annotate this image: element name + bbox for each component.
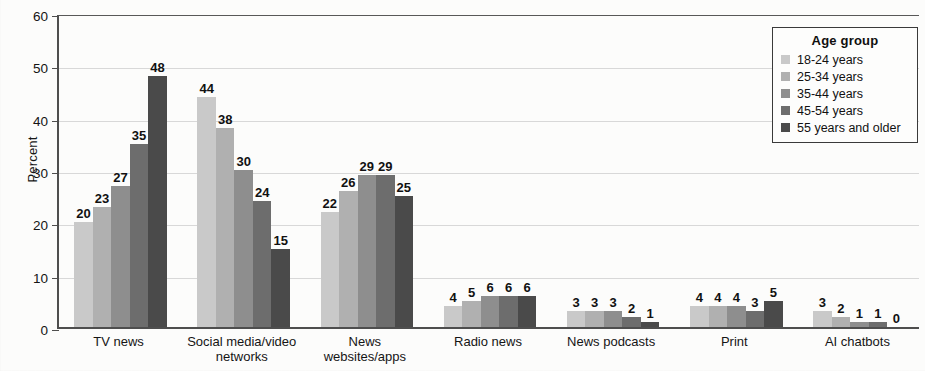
bar: 22	[321, 212, 340, 327]
legend-item-label: 25-34 years	[797, 70, 863, 84]
bar: 26	[339, 191, 358, 327]
legend-item-label: 35-44 years	[797, 87, 863, 101]
bar-value-label: 6	[486, 281, 493, 294]
bar: 2	[832, 317, 851, 327]
bar: 4	[690, 306, 709, 327]
bar-value-label: 30	[236, 155, 250, 168]
bar: 48	[148, 76, 167, 327]
legend-swatch-icon	[781, 123, 790, 132]
legend-swatch-icon	[781, 72, 790, 81]
bar-value-label: 3	[751, 296, 758, 309]
bar-value-label: 3	[610, 296, 617, 309]
bar-group: 33321	[567, 16, 660, 327]
bar-value-label: 6	[523, 281, 530, 294]
x-axis-label: TV news	[57, 334, 180, 349]
bar-value-label: 4	[449, 291, 456, 304]
y-axis-tick	[52, 16, 59, 17]
legend-item-label: 55 years and older	[797, 121, 901, 135]
bar: 38	[216, 128, 235, 327]
legend-swatch-icon	[781, 89, 790, 98]
bar-value-label: 3	[819, 296, 826, 309]
bar-value-label: 4	[733, 291, 740, 304]
y-axis-label: 20	[33, 218, 48, 233]
bar-value-label: 22	[323, 197, 337, 210]
bar: 20	[74, 222, 93, 327]
bar-group: 45666	[444, 16, 537, 327]
legend-item: 18-24 years	[781, 51, 909, 68]
y-axis-tick	[52, 121, 59, 122]
bar: 44	[197, 97, 216, 327]
x-axis-label: News podcasts	[550, 334, 673, 349]
x-axis-label: Newswebsites/apps	[303, 334, 426, 364]
x-axis-label-line: Print	[673, 334, 796, 349]
bar-value-label: 0	[893, 312, 900, 325]
bar: 3	[585, 311, 604, 327]
bar-value-label: 20	[76, 207, 90, 220]
bar: 5	[764, 301, 783, 327]
y-axis-label: 60	[33, 9, 48, 24]
bar-value-label: 5	[770, 286, 777, 299]
x-axis-label: Social media/videonetworks	[180, 334, 303, 364]
bar: 29	[358, 175, 377, 327]
bar-value-label: 6	[505, 281, 512, 294]
x-axis-label-line: websites/apps	[303, 349, 426, 364]
bar: 2	[622, 317, 641, 327]
legend-item: 45-54 years	[781, 102, 909, 119]
bar-value-label: 25	[397, 181, 411, 194]
y-axis-label: 10	[33, 270, 48, 285]
bar: 30	[234, 170, 253, 327]
bar-group: 4438302415	[197, 16, 290, 327]
bar-value-label: 26	[341, 176, 355, 189]
bar-value-label: 35	[132, 129, 146, 142]
bar: 6	[499, 296, 518, 327]
bar: 1	[869, 322, 888, 327]
bar: 27	[111, 186, 130, 327]
legend-item-label: 45-54 years	[797, 104, 863, 118]
y-axis-label: 50	[33, 61, 48, 76]
x-axis-label-line: Social media/video	[180, 334, 303, 349]
y-axis-tick	[52, 330, 59, 331]
x-axis-label: Print	[673, 334, 796, 349]
y-axis-label: 0	[40, 323, 48, 338]
legend-item-label: 18-24 years	[797, 53, 863, 67]
bar-value-label: 5	[468, 286, 475, 299]
x-axis-label-line: TV news	[57, 334, 180, 349]
bar-value-label: 29	[360, 160, 374, 173]
bar: 5	[462, 301, 481, 327]
bar: 24	[253, 201, 272, 327]
bar-value-label: 27	[113, 171, 127, 184]
bar: 1	[641, 322, 660, 327]
bar-value-label: 2	[628, 302, 635, 315]
x-axis-label-line: Radio news	[426, 334, 549, 349]
bar: 4	[727, 306, 746, 327]
bar-value-label: 3	[573, 296, 580, 309]
y-axis-tick	[52, 68, 59, 69]
bar: 3	[604, 311, 623, 327]
bar-value-label: 24	[255, 186, 269, 199]
bar: 4	[709, 306, 728, 327]
bar: 29	[376, 175, 395, 327]
bar: 6	[481, 296, 500, 327]
bar-value-label: 48	[150, 61, 164, 74]
bar: 23	[93, 207, 112, 327]
legend-item: 35-44 years	[781, 85, 909, 102]
bar-value-label: 2	[837, 302, 844, 315]
x-axis-label-line: networks	[180, 349, 303, 364]
bar: 4	[444, 306, 463, 327]
bar-group: 44435	[690, 16, 783, 327]
y-axis-tick	[52, 225, 59, 226]
bar: 15	[271, 249, 290, 328]
y-axis-tick	[52, 278, 59, 279]
legend-swatch-icon	[781, 106, 790, 115]
bar-value-label: 38	[218, 113, 232, 126]
bar-value-label: 4	[714, 291, 721, 304]
x-axis-label: Radio news	[426, 334, 549, 349]
x-axis-label-line: News	[303, 334, 426, 349]
legend-item: 55 years and older	[781, 119, 909, 136]
bar: 35	[130, 144, 149, 327]
bar-value-label: 15	[273, 234, 287, 247]
bar-value-label: 29	[378, 160, 392, 173]
x-axis-label: AI chatbots	[796, 334, 919, 349]
bar-value-label: 23	[95, 192, 109, 205]
legend-title: Age group	[781, 33, 909, 48]
